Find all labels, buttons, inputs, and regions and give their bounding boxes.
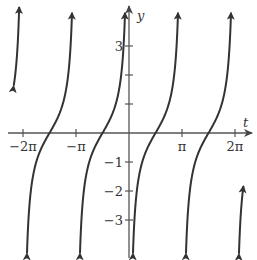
x-tick-label: −2π	[9, 139, 37, 154]
tangent-graph: −2π−ππ2π 3−1−2−3 t y	[0, 0, 257, 260]
x-tick-label: π	[178, 139, 187, 154]
x-axis-label: t	[243, 115, 249, 130]
curve-branch-left-partial	[14, 7, 19, 86]
x-tick-label: 2π	[227, 139, 244, 154]
y-tick-label: 3	[115, 39, 123, 54]
y-tick-label: −2	[104, 184, 123, 199]
curve-branch-right-partial	[239, 186, 243, 254]
y-axis-label: y	[136, 8, 145, 23]
x-tick-label: −π	[66, 139, 86, 154]
y-tick-label: −1	[104, 155, 123, 170]
y-tick-label: −3	[104, 213, 123, 228]
